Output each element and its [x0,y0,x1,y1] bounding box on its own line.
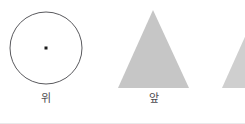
figure-canvas [0,0,245,124]
front-view-triangle [118,10,189,88]
top-view-label: 위 [0,93,92,104]
front-view-label: 앞 [108,93,200,104]
top-view-group [10,12,82,84]
side-view-group [222,10,245,88]
front-view-group [118,10,189,88]
bottom-divider [0,123,245,124]
orthographic-views-figure: 위 앞 [0,0,245,124]
center-point-dot-icon [45,47,48,50]
side-view-triangle [222,10,245,88]
